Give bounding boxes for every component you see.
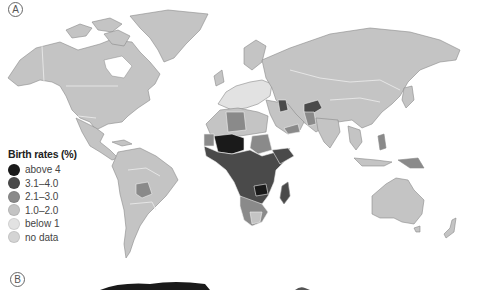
legend-item-no-data: no data [8,231,77,245]
legend-label: below 1 [25,218,59,229]
legend-label: 1.0–2.0 [25,205,58,216]
legend-swatch [8,164,20,176]
legend-item-above-4: above 4 [8,163,77,177]
legend-item-2-1-to-3: 2.1–3.0 [8,190,77,204]
legend-label: above 4 [25,164,61,175]
legend-swatch [8,191,20,203]
legend: Birth rates (%) above 4 3.1–4.0 2.1–3.0 … [8,148,77,244]
legend-swatch [8,204,20,216]
legend-item-3-1-to-4: 3.1–4.0 [8,177,77,191]
legend-swatch [8,218,20,230]
legend-label: 2.1–3.0 [25,191,58,202]
legend-label: no data [25,232,58,243]
legend-swatch [8,231,20,243]
europe [214,40,272,110]
legend-title: Birth rates (%) [8,148,77,160]
north-america [8,10,208,160]
legend-item-below-1: below 1 [8,217,77,231]
legend-item-1-to-2: 1.0–2.0 [8,204,77,218]
oceania [372,178,456,238]
south-america [112,148,178,258]
asia [262,28,460,168]
legend-swatch [8,177,20,189]
legend-label: 3.1–4.0 [25,178,58,189]
panel-b-image-top [0,270,478,290]
